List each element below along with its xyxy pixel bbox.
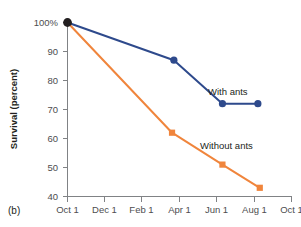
y-tick-label: 60 [47, 133, 58, 144]
y-tick-label: 90 [47, 46, 58, 57]
series-layer [63, 18, 263, 191]
panel-label: (b) [8, 205, 20, 216]
x-tick-labels: Oct 1 Dec 1 Feb 1 Apr 1 Jun 1 Aug 1 Oct … [56, 204, 301, 215]
series-line-without-ants [68, 23, 260, 188]
y-tick-label: 70 [47, 104, 58, 115]
data-point-with-ants-3 [254, 100, 261, 107]
figure-panel-b: 100% 90 80 70 60 50 40 Oct 1 Dec 1 Feb 1… [0, 0, 301, 227]
data-point-origin [63, 18, 72, 27]
x-tick-label: Aug 1 [242, 204, 267, 215]
x-tick-label: Apr 1 [168, 204, 191, 215]
series-label-with-ants: With ants [208, 86, 248, 97]
y-tick-label: 50 [47, 162, 58, 173]
x-tick-label: Oct 1 [56, 204, 79, 215]
x-tick-label: Jun 1 [205, 204, 228, 215]
x-tick-marks [68, 197, 292, 202]
data-point-with-ants-2 [219, 100, 226, 107]
survival-line-chart: 100% 90 80 70 60 50 40 Oct 1 Dec 1 Feb 1… [0, 0, 301, 227]
x-tick-label: Oct 1 [280, 204, 301, 215]
chart-axes [68, 22, 293, 197]
y-tick-marks [63, 23, 68, 197]
data-point-without-ants-3 [257, 185, 263, 191]
x-tick-label: Dec 1 [92, 204, 117, 215]
y-tick-labels: 100% 90 80 70 60 50 40 [34, 17, 59, 202]
data-point-with-ants-1 [170, 57, 177, 64]
data-point-without-ants-1 [169, 130, 175, 136]
data-point-without-ants-2 [219, 162, 225, 168]
y-tick-label: 40 [47, 191, 58, 202]
y-axis-title: Survival (percent) [8, 69, 19, 149]
x-tick-label: Feb 1 [129, 204, 153, 215]
y-tick-label: 100% [34, 17, 59, 28]
y-tick-label: 80 [47, 75, 58, 86]
series-label-without-ants: Without ants [200, 140, 253, 151]
